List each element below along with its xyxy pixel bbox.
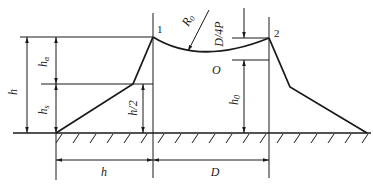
label-radius: R0 [178, 12, 197, 30]
label-d-over-4p: D/4P [212, 21, 226, 48]
label-bottom-h: h [101, 165, 107, 179]
label-h-s: hs [36, 105, 51, 114]
diagram-canvas: 1 2 O h hα hs h/2 h0 D/4P R0 h D [0, 0, 373, 189]
label-h-alpha: hα [36, 56, 51, 67]
crest-arc [153, 37, 269, 52]
label-center-o: O [212, 63, 221, 77]
label-bottom-d: D [210, 165, 220, 179]
dam-profile-right [269, 38, 367, 133]
label-point-2: 2 [274, 27, 280, 39]
label-h-half: h/2 [126, 100, 140, 115]
label-h0: h0 [227, 95, 242, 105]
ground-hatching [56, 134, 368, 143]
label-point-1: 1 [157, 23, 163, 35]
label-h-total: h [6, 89, 20, 95]
dam-profile-left [56, 37, 153, 133]
